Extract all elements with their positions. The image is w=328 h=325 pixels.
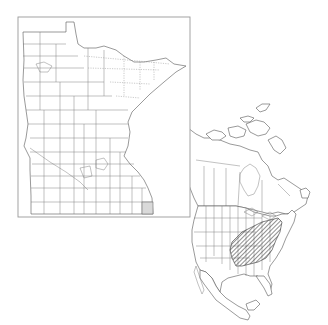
houston-county-highlight <box>142 202 153 214</box>
distribution-map <box>0 0 328 325</box>
